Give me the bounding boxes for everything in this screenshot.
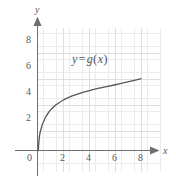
equation-equals: = xyxy=(78,52,87,66)
graph-figure: y x 0 2 4 6 8 2 4 6 8 y=g(x) xyxy=(0,0,176,179)
tick-label-x-6: 6 xyxy=(112,153,117,163)
tick-label-origin: 0 xyxy=(27,153,32,163)
tick-label-x-2: 2 xyxy=(60,153,65,163)
tick-label-y-6: 6 xyxy=(26,61,31,71)
x-axis-label: x xyxy=(163,146,167,156)
curve-equation-label: y=g(x) xyxy=(72,52,108,65)
y-axis-label: y xyxy=(35,5,39,15)
equation-y: y xyxy=(72,52,78,66)
equation-close-paren: ) xyxy=(103,51,108,66)
tick-label-x-4: 4 xyxy=(86,153,91,163)
tick-label-y-8: 8 xyxy=(26,35,31,45)
tick-label-y-2: 2 xyxy=(26,113,31,123)
tick-label-y-4: 4 xyxy=(26,87,31,97)
tick-label-x-8: 8 xyxy=(138,153,143,163)
